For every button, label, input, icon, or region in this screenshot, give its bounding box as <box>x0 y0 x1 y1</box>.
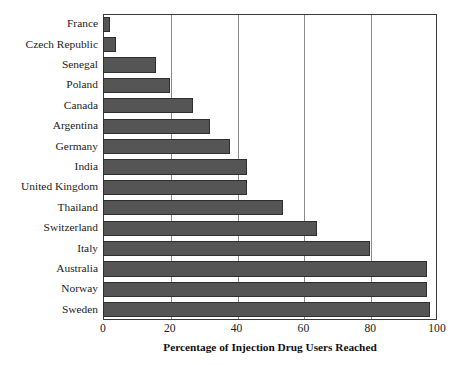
x-tick-label: 20 <box>164 322 176 335</box>
bar <box>103 159 247 174</box>
value-axis-ticks: 020406080100 <box>103 322 437 340</box>
horizontal-bar-chart: FranceCzech RepublicSenegalPolandCanadaA… <box>0 0 475 365</box>
bar <box>103 261 427 276</box>
category-label: Switzerland <box>0 221 98 234</box>
x-tick-label: 60 <box>298 322 310 335</box>
bar <box>103 119 210 134</box>
category-label: Germany <box>0 140 98 153</box>
bar <box>103 241 370 256</box>
category-label: Thailand <box>0 201 98 214</box>
category-label: Argentina <box>0 119 98 132</box>
bar <box>103 180 247 195</box>
category-label: Sweden <box>0 303 98 316</box>
bar <box>103 200 283 215</box>
category-label: Poland <box>0 78 98 91</box>
category-label: Senegal <box>0 58 98 71</box>
category-label: Australia <box>0 262 98 275</box>
bar <box>103 139 230 154</box>
bar <box>103 78 170 93</box>
x-tick-label: 40 <box>231 322 243 335</box>
category-label: Czech Republic <box>0 38 98 51</box>
x-tick-label: 100 <box>428 322 445 335</box>
category-label: India <box>0 160 98 173</box>
category-label: Norway <box>0 282 98 295</box>
bar <box>103 302 430 317</box>
x-tick-label: 80 <box>364 322 376 335</box>
x-axis-title: Percentage of Injection Drug Users Reach… <box>103 341 437 353</box>
category-label: Canada <box>0 99 98 112</box>
bar <box>103 37 116 52</box>
category-axis-labels: FranceCzech RepublicSenegalPolandCanadaA… <box>0 14 98 320</box>
bar <box>103 57 156 72</box>
category-label: United Kingdom <box>0 180 98 193</box>
category-label: Italy <box>0 242 98 255</box>
category-label: France <box>0 17 98 30</box>
bar <box>103 17 110 32</box>
bar <box>103 282 427 297</box>
bars-layer <box>103 14 437 320</box>
bar <box>103 98 193 113</box>
bar <box>103 221 317 236</box>
x-tick-label: 0 <box>100 322 106 335</box>
